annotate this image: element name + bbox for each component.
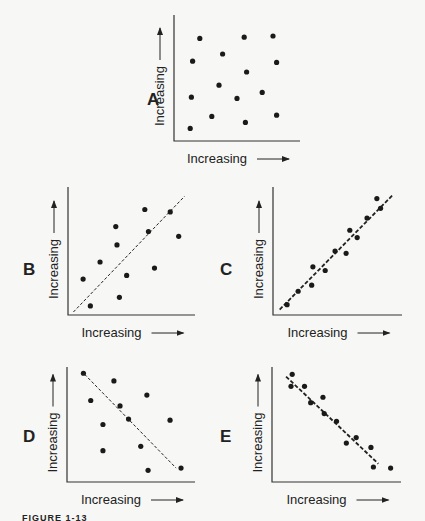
data-point — [220, 51, 225, 56]
data-point — [113, 224, 118, 229]
data-point — [344, 251, 349, 256]
data-point — [168, 209, 173, 214]
data-point — [354, 435, 359, 440]
axes — [174, 15, 300, 141]
trend-line — [73, 196, 184, 312]
data-point — [209, 114, 214, 119]
data-point — [308, 400, 313, 405]
panel-label-d: D — [23, 427, 35, 447]
scatter-figure: IncreasingIncreasingIncreasingIncreasing… — [0, 0, 425, 521]
data-point — [190, 59, 195, 64]
data-point — [111, 378, 116, 383]
data-point — [88, 303, 93, 308]
panel-e: IncreasingIncreasing — [250, 367, 401, 507]
data-point — [323, 268, 328, 273]
y-axis-label: Increasing — [251, 239, 266, 299]
data-point — [81, 276, 86, 281]
data-point — [310, 264, 315, 269]
data-point — [152, 265, 157, 270]
figure-caption: FIGURE 1-13 — [22, 513, 88, 521]
data-point — [138, 444, 143, 449]
panel-label-a: A — [147, 90, 159, 110]
data-point — [332, 248, 337, 253]
y-axis-label: Increasing — [250, 413, 265, 473]
data-point — [270, 33, 275, 38]
data-point — [355, 235, 360, 240]
data-point — [117, 403, 122, 408]
data-point — [124, 273, 129, 278]
data-point — [216, 83, 221, 88]
data-point — [320, 395, 325, 400]
panel-c: IncreasingIncreasing — [251, 187, 402, 340]
data-point — [374, 196, 379, 201]
panel-label-e: E — [220, 427, 231, 447]
data-point — [378, 206, 383, 211]
data-point — [88, 398, 93, 403]
data-point — [81, 371, 86, 376]
data-point — [260, 90, 265, 95]
data-point — [296, 289, 301, 294]
x-axis-label: Increasing — [81, 492, 141, 507]
data-point — [146, 229, 151, 234]
panel-a: IncreasingIncreasing — [152, 15, 300, 166]
data-point — [302, 384, 307, 389]
x-axis-label: Increasing — [287, 492, 347, 507]
x-axis-label: Increasing — [288, 325, 348, 340]
data-point — [309, 283, 314, 288]
data-point — [290, 372, 295, 377]
data-point — [371, 464, 376, 469]
data-point — [100, 448, 105, 453]
panel-b: IncreasingIncreasing — [46, 187, 195, 340]
data-point — [144, 392, 149, 397]
data-point — [274, 60, 279, 65]
trend-line — [286, 377, 378, 464]
data-point — [114, 242, 119, 247]
data-point — [344, 440, 349, 445]
x-axis-label: Increasing — [82, 325, 142, 340]
y-axis-label: Increasing — [45, 413, 60, 473]
trend-line — [85, 374, 177, 468]
panel-label-b: B — [23, 260, 35, 280]
data-point — [145, 468, 150, 473]
data-point — [288, 384, 293, 389]
panel-label-c: C — [220, 260, 232, 280]
data-point — [347, 228, 352, 233]
data-point — [388, 466, 393, 471]
x-axis-label: Increasing — [187, 151, 247, 166]
data-point — [274, 113, 279, 118]
data-point — [97, 259, 102, 264]
axes — [68, 187, 195, 315]
data-point — [334, 419, 339, 424]
y-axis-label: Increasing — [46, 239, 61, 299]
data-point — [167, 418, 172, 423]
data-point — [178, 466, 183, 471]
data-point — [117, 295, 122, 300]
data-point — [176, 234, 181, 239]
data-point — [234, 96, 239, 101]
data-point — [188, 126, 193, 131]
data-point — [242, 35, 247, 40]
data-point — [142, 207, 147, 212]
data-point — [189, 95, 194, 100]
data-point — [364, 215, 369, 220]
panel-d: IncreasingIncreasing — [45, 367, 195, 507]
axes — [67, 367, 195, 482]
data-point — [244, 69, 249, 74]
data-point — [243, 120, 248, 125]
data-point — [126, 416, 131, 421]
data-point — [322, 411, 327, 416]
data-point — [197, 36, 202, 41]
data-point — [368, 445, 373, 450]
data-point — [284, 302, 289, 307]
data-point — [100, 422, 105, 427]
